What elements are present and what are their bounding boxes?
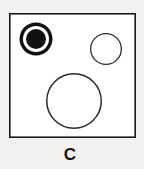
panel-label: C [64, 145, 76, 164]
filled-target-circle [20, 23, 53, 56]
small-open-circle [91, 34, 122, 65]
figure-canvas: C [0, 0, 144, 169]
target-inner-dot [26, 29, 46, 49]
figure-panel-c: C [0, 0, 144, 169]
large-open-circle [47, 74, 102, 129]
